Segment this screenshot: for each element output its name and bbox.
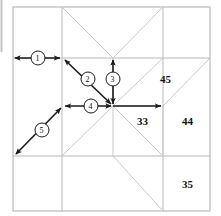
pinwheel-diagonal-bottom-outer [113, 156, 163, 211]
outer-frame [13, 7, 210, 211]
pinwheel-diagonal-left-lower [62, 106, 113, 156]
callout-label-3: 3 [111, 76, 115, 84]
region-label-44: 44 [182, 116, 193, 127]
pinwheel-diagonal-bottom-right [113, 106, 163, 156]
region-label-35: 35 [182, 179, 193, 190]
callout-label-1: 1 [36, 55, 40, 63]
region-label-45: 45 [160, 74, 171, 85]
callout-circles [31, 51, 120, 137]
block-grid [13, 7, 210, 211]
region-label-33: 33 [137, 116, 148, 127]
callout-label-5: 5 [40, 127, 44, 135]
pinwheel-diagonal-top [62, 7, 113, 58]
callout-label-4: 4 [89, 103, 93, 111]
callout-label-2: 2 [86, 76, 90, 84]
pinwheel-diagonal-top-right [113, 7, 163, 58]
pinwheel-diagonal-right-upper [113, 58, 163, 106]
